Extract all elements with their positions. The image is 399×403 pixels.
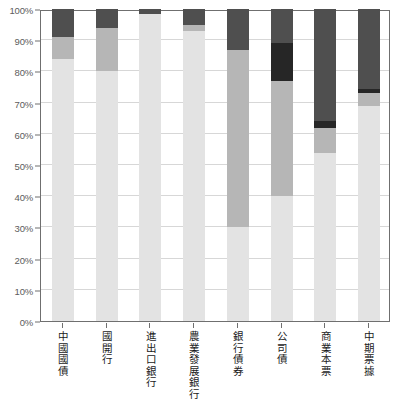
bar-segment	[271, 43, 293, 80]
x-axis-label: 進出口銀行	[144, 331, 156, 389]
x-axis-label: 國開行	[100, 331, 112, 366]
bar-segment	[358, 89, 380, 94]
y-axis-tick-label: 10%	[15, 285, 33, 296]
x-axis-label: 中期票據	[362, 331, 374, 377]
x-axis-tick-mark	[281, 323, 282, 328]
bar-column	[139, 11, 161, 321]
bar-segment	[314, 128, 336, 153]
x-axis-tick-mark	[193, 323, 194, 328]
bar-stack	[271, 11, 293, 321]
bar-segment	[358, 9, 380, 89]
bar-segment	[52, 59, 74, 321]
bar-stack	[314, 11, 336, 321]
bar-segment	[52, 9, 74, 37]
bar-segment	[183, 31, 205, 321]
bar-column	[52, 11, 74, 321]
y-axis-tick-label: 60%	[15, 129, 33, 140]
x-axis-label: 農業發展銀行	[187, 331, 199, 400]
bar-stack	[139, 11, 161, 321]
bar-segment	[183, 25, 205, 31]
y-axis-tick-label: 100%	[10, 5, 34, 16]
bar-column	[227, 11, 249, 321]
x-axis-tick-mark	[62, 323, 63, 328]
bar-stack	[96, 11, 118, 321]
gridline	[41, 102, 389, 103]
gridline	[41, 39, 389, 40]
gridline	[41, 258, 389, 259]
gridline	[41, 226, 389, 227]
bar-segment	[314, 9, 336, 121]
bar-segment	[183, 9, 205, 25]
x-axis: 中國國債國開行進出口銀行農業發展銀行銀行債券公司債商業本票中期票據	[40, 323, 390, 403]
gridline	[41, 133, 389, 134]
gridline	[41, 289, 389, 290]
bar-segment	[227, 9, 249, 50]
bar-segment	[271, 196, 293, 321]
y-axis-tick-label: 90%	[15, 36, 33, 47]
bar-segment	[314, 121, 336, 127]
y-axis-tick-label: 80%	[15, 67, 33, 78]
y-axis-tick-label: 40%	[15, 192, 33, 203]
bar-segment	[227, 227, 249, 321]
bar-column	[271, 11, 293, 321]
y-axis-tick-label: 0%	[20, 317, 33, 328]
x-axis-label: 中國國債	[56, 331, 68, 377]
y-axis-tick-label: 50%	[15, 161, 33, 172]
bar-segment	[227, 50, 249, 228]
x-axis-tick-mark	[106, 323, 107, 328]
gridline	[41, 195, 389, 196]
bar-stack	[358, 11, 380, 321]
bar-segment	[139, 14, 161, 321]
x-axis-tick-mark	[368, 323, 369, 328]
x-axis-tick-mark	[149, 323, 150, 328]
stacked-bar-chart: 0%10%20%30%40%50%60%70%80%90%100% 中國國債國開…	[0, 0, 399, 403]
x-axis-label: 公司債	[275, 331, 287, 366]
bar-column	[358, 11, 380, 321]
y-axis: 0%10%20%30%40%50%60%70%80%90%100%	[0, 0, 40, 332]
bar-segment	[358, 106, 380, 321]
gridline	[41, 164, 389, 165]
bar-segment	[52, 37, 74, 59]
bar-segment	[271, 9, 293, 43]
bar-segment	[96, 9, 118, 28]
x-axis-tick-mark	[324, 323, 325, 328]
y-axis-tick-label: 30%	[15, 223, 33, 234]
bar-segment	[358, 93, 380, 105]
x-axis-tick-mark	[237, 323, 238, 328]
bar-stack	[183, 11, 205, 321]
bar-column	[314, 11, 336, 321]
bar-stack	[52, 11, 74, 321]
y-axis-tick-label: 20%	[15, 254, 33, 265]
bar-segment	[139, 9, 161, 14]
bar-segment	[314, 153, 336, 321]
bar-segment	[271, 81, 293, 196]
bar-stack	[227, 11, 249, 321]
bar-segment	[96, 71, 118, 321]
bar-column	[183, 11, 205, 321]
x-axis-label: 銀行債券	[231, 331, 243, 377]
bar-column	[96, 11, 118, 321]
bar-segment	[96, 28, 118, 72]
plot-area	[40, 10, 390, 322]
y-axis-tick-label: 70%	[15, 98, 33, 109]
gridline	[41, 70, 389, 71]
x-axis-label: 商業本票	[319, 331, 331, 377]
